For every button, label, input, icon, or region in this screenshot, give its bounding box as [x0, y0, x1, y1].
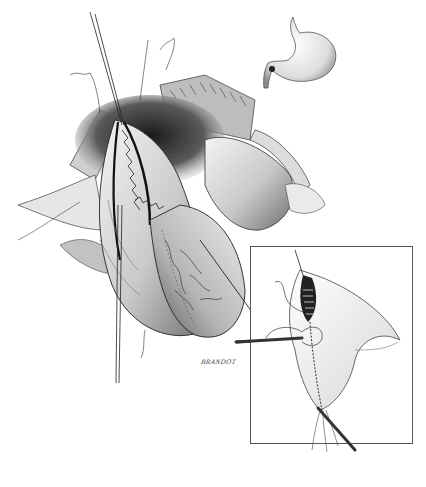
pylorus-marker	[269, 66, 275, 72]
artist-signature: BRANDOT	[200, 358, 236, 366]
detail-inset	[236, 247, 413, 453]
surgical-illustration	[0, 0, 426, 487]
stomach-orientation-sketch	[264, 17, 336, 88]
